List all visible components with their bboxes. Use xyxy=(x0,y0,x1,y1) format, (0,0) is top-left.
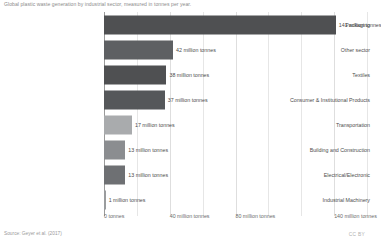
bar-rows: Packaging141 million tonnesOther sector4… xyxy=(0,12,370,212)
bar-value-label: 13 million tonnes xyxy=(128,147,168,153)
chart-subtitle: Global plastic waste generation by indus… xyxy=(4,1,191,7)
bar-row[interactable]: Transportation17 million tonnes xyxy=(0,112,370,137)
bar-row[interactable]: Packaging141 million tonnes xyxy=(0,12,370,37)
category-label: Transportation xyxy=(270,122,370,128)
bar[interactable] xyxy=(104,90,165,109)
bar[interactable] xyxy=(104,65,166,84)
plot-area: Packaging141 million tonnesOther sector4… xyxy=(0,12,370,212)
bar-value-label: 13 million tonnes xyxy=(128,172,168,178)
x-tick-label: 140 million tonnes xyxy=(334,213,377,220)
category-label: Textiles xyxy=(270,72,370,78)
bar[interactable] xyxy=(104,15,336,34)
bar-value-label: 37 million tonnes xyxy=(168,97,208,103)
bar-value-label: 38 million tonnes xyxy=(169,72,209,78)
x-axis: 0 tonnes40 million tonnes80 million tonn… xyxy=(0,213,370,225)
x-tick-label: 80 million tonnes xyxy=(236,213,276,220)
bar-value-label: 1 million tonnes xyxy=(109,197,146,203)
bar-row[interactable]: Electrical/Electronic13 million tonnes xyxy=(0,162,370,187)
category-label: Industrial Machinery xyxy=(270,197,370,203)
category-label: Electrical/Electronic xyxy=(270,172,370,178)
category-label: Other sector xyxy=(270,47,370,53)
bar-value-label: 42 million tonnes xyxy=(176,47,216,53)
license-label: CC BY xyxy=(349,232,365,238)
category-label: Building and Construction xyxy=(270,147,370,153)
bar-value-label: 17 million tonnes xyxy=(135,122,175,128)
x-tick-label: 0 tonnes xyxy=(104,213,124,220)
bar-row[interactable]: Industrial Machinery1 million tonnes xyxy=(0,187,370,212)
x-tick-label: 40 million tonnes xyxy=(170,213,210,220)
bar-row[interactable]: Building and Construction13 million tonn… xyxy=(0,137,370,162)
source-note: Source: Geyer et al. (2017) xyxy=(4,231,62,237)
bar[interactable] xyxy=(104,40,173,59)
bar[interactable] xyxy=(104,115,132,134)
bar[interactable] xyxy=(104,140,125,159)
bar-row[interactable]: Textiles38 million tonnes xyxy=(0,62,370,87)
category-label: Consumer & Institutional Products xyxy=(270,97,370,103)
bar-row[interactable]: Consumer & Institutional Products37 mill… xyxy=(0,87,370,112)
bar[interactable] xyxy=(104,190,106,209)
bar-value-label: 141 million tonnes xyxy=(339,22,381,28)
bar[interactable] xyxy=(104,165,125,184)
bar-row[interactable]: Other sector42 million tonnes xyxy=(0,37,370,62)
